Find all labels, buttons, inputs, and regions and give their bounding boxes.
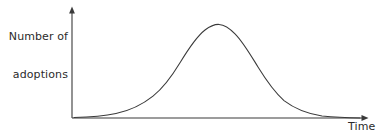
y-axis-label: Number of adoptions <box>6 6 68 106</box>
x-axis-label: Time <box>348 121 375 134</box>
bell-curve-diagram: Number of adoptions Time <box>0 0 390 138</box>
y-axis-label-line-2: adoptions <box>6 69 68 82</box>
y-axis-arrowhead-icon <box>69 7 75 14</box>
bell-curve-path <box>74 24 360 118</box>
y-axis-label-line-1: Number of <box>6 31 68 44</box>
